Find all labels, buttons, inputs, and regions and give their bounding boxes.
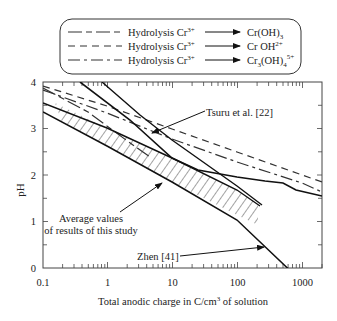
- arrow-tsuru: [152, 111, 205, 133]
- arrow-zhen: [180, 247, 264, 256]
- ph-vs-charge-chart: Hydrolysis Cr3+ Cr(OH)3 Hydrolysis Cr3+ …: [0, 0, 337, 321]
- arrow-average: [120, 183, 162, 212]
- svg-text:0.1: 0.1: [36, 277, 49, 288]
- svg-text:1: 1: [31, 216, 36, 227]
- svg-text:1: 1: [105, 277, 110, 288]
- svg-text:3: 3: [31, 123, 36, 134]
- legend-label: Hydrolysis Cr3+: [128, 54, 195, 66]
- legend-label: Hydrolysis Cr3+: [128, 26, 195, 38]
- plot-area: [43, 82, 322, 280]
- y-axis-label: pH: [14, 183, 26, 197]
- svg-text:10: 10: [167, 277, 178, 288]
- svg-text:1000: 1000: [292, 277, 313, 288]
- label-zhen: Zhen [41]: [137, 251, 179, 262]
- svg-text:2: 2: [31, 170, 36, 181]
- legend-label: Hydrolysis Cr3+: [128, 40, 195, 52]
- y-tick-labels: 0 1 2 3 4: [31, 77, 37, 274]
- x-tick-labels: 0.1 1 10 100 1000: [36, 277, 313, 288]
- svg-text:0: 0: [31, 263, 36, 274]
- label-average-1: Average values: [59, 213, 123, 224]
- hatched-band-average-results: [55, 103, 258, 225]
- legend: Hydrolysis Cr3+ Cr(OH)3 Hydrolysis Cr3+ …: [60, 19, 301, 74]
- x-axis-label: Total anodic charge in C/cm3 of solution: [98, 295, 269, 307]
- label-tsuru: Tsuru et al. [22]: [206, 107, 273, 118]
- svg-text:4: 4: [31, 77, 37, 88]
- label-average-2: of results of this study: [44, 225, 138, 236]
- svg-text:100: 100: [230, 277, 246, 288]
